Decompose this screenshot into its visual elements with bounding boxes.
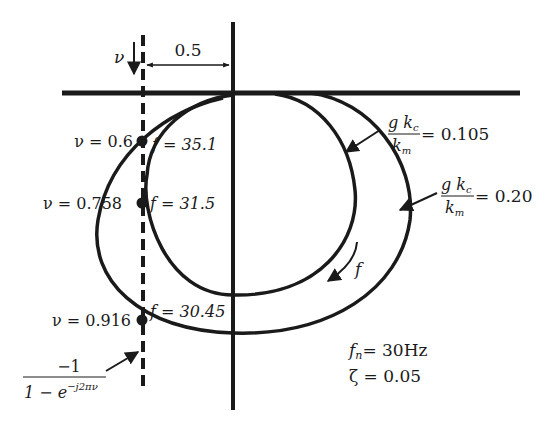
boundary-pointer-arrow [106, 352, 138, 371]
intersection-nu-label-3: ν = 0.916 [52, 311, 131, 330]
boundary-formula-label: −1 1 − e−j2πν [23, 357, 106, 402]
intersection-point-3 [137, 315, 148, 326]
intersection-f-label-3: f = 30.45 [149, 302, 225, 321]
nyquist-diagram: 0.5 ν g kc km = 0.105 g kc km = 0.20 f ν… [0, 0, 554, 430]
outer-curve-pointer-arrow [400, 193, 437, 210]
svg-text:−1: −1 [57, 357, 81, 376]
svg-text:= 0.105: = 0.105 [421, 124, 489, 144]
svg-text:= 0.20: = 0.20 [475, 186, 533, 206]
intersection-nu-label-1: ν = 0.6 [74, 132, 133, 151]
svg-text:g kc: g kc [388, 113, 419, 133]
intersection-f-label-1: f = 35.1 [151, 135, 217, 154]
offset-label: 0.5 [174, 40, 201, 60]
frequency-direction-label: f [353, 259, 364, 279]
intersection-point-1 [137, 136, 148, 147]
svg-text:km: km [445, 198, 464, 218]
natural-frequency-label: fn= 30Hz [347, 340, 427, 362]
svg-text:g kc: g kc [441, 175, 472, 195]
svg-text:km: km [392, 136, 411, 156]
damping-ratio-label: ζ = 0.05 [349, 366, 421, 386]
intersection-nu-label-2: ν = 0.758 [43, 194, 122, 213]
intersection-point-2 [137, 198, 148, 209]
nu-arrow-label: ν [114, 47, 124, 67]
intersection-f-label-2: f = 31.5 [149, 194, 215, 213]
frequency-direction-arrow [328, 242, 357, 281]
inner-curve-gain-label: g kc km = 0.105 [388, 113, 489, 156]
inner-curve-pointer-arrow [346, 130, 380, 152]
outer-curve-gain-label: g kc km = 0.20 [441, 175, 533, 218]
svg-text:1 − e−j2πν: 1 − e−j2πν [24, 381, 98, 402]
